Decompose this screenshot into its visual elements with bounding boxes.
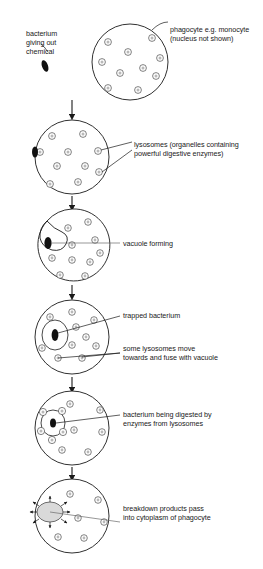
phagocyte-cell-membrane bbox=[35, 120, 109, 194]
stage-5-digesting bbox=[35, 391, 120, 465]
bacterium-shape bbox=[32, 147, 38, 158]
stage-6-breakdown bbox=[30, 479, 120, 553]
label-breakdown: breakdown products pass into cytoplasm o… bbox=[123, 504, 211, 522]
diagram-canvas bbox=[0, 0, 263, 569]
bacterium-shape-digesting bbox=[50, 419, 56, 428]
stage-3-vacuole-forming bbox=[38, 209, 120, 281]
bacterium-shape bbox=[44, 237, 51, 249]
bacterium-shape bbox=[52, 329, 59, 341]
label-bacterium: bacterium giving out chemical bbox=[26, 29, 57, 57]
label-phagocyte: phagocyte e.g. monocyte (nucleus not sho… bbox=[170, 25, 249, 43]
stage-4-trapped bbox=[35, 300, 120, 374]
label-vacuole-forming: vacuole forming bbox=[123, 239, 173, 248]
label-being-digested: bacterium being digested by enzymes from… bbox=[123, 410, 212, 428]
bacterium-shape bbox=[40, 59, 50, 72]
stage-1-attraction bbox=[40, 22, 168, 100]
label-lysosomes-move: some lysosomes move towards and fuse wit… bbox=[123, 344, 218, 362]
leader-phagocyte bbox=[152, 22, 168, 30]
stage-2-lysosomes bbox=[32, 120, 132, 194]
phagocytosis-diagram: bacterium giving out chemical phagocyte … bbox=[0, 0, 263, 569]
label-trapped-bacterium: trapped bacterium bbox=[123, 311, 180, 320]
label-lysosomes: lysosomes (organelles containing powerfu… bbox=[134, 140, 239, 158]
